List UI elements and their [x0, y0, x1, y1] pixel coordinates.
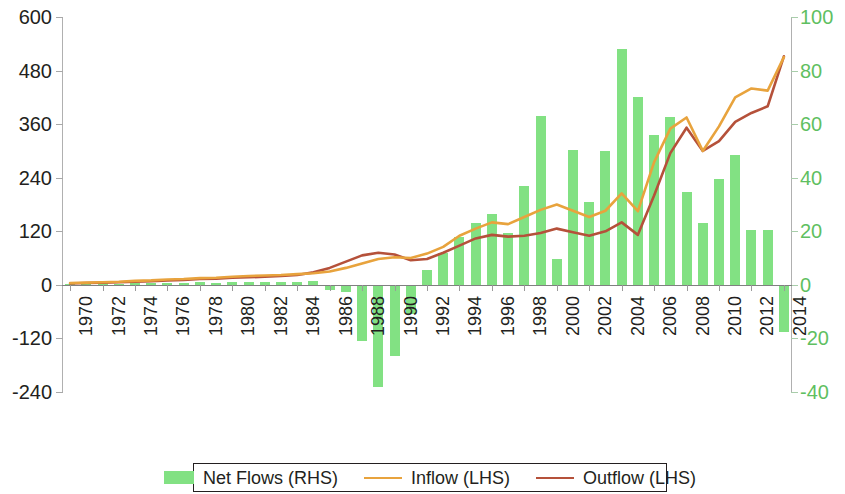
x-axis-tick-label: 2014 — [791, 296, 809, 336]
x-axis-tick — [232, 285, 233, 291]
x-axis-tick — [330, 285, 331, 291]
legend-item-net-flows: Net Flows (RHS) — [164, 469, 338, 487]
right-axis-tick-label: 60 — [800, 114, 845, 134]
x-axis-tick — [297, 285, 298, 291]
right-axis-tick — [791, 178, 798, 179]
right-axis-tick — [791, 71, 798, 72]
right-axis-tick-label: 80 — [800, 61, 845, 81]
legend-bar-swatch-icon — [164, 471, 194, 484]
x-axis-tick-label: 1982 — [272, 296, 290, 336]
x-axis-tick-label: 1994 — [466, 296, 484, 336]
x-axis-tick-label: 2012 — [758, 296, 776, 336]
x-axis-tick — [784, 285, 785, 291]
legend-label-inflow: Inflow (LHS) — [411, 469, 510, 487]
x-axis-tick-label: 1978 — [207, 296, 225, 336]
right-axis-tick-label: 20 — [800, 221, 845, 241]
x-axis-tick-label: 1972 — [110, 296, 128, 336]
left-axis-tick — [56, 392, 63, 393]
x-axis-tick — [622, 285, 623, 291]
right-axis-tick — [791, 17, 798, 18]
x-axis-tick-label: 1986 — [337, 296, 355, 336]
x-axis-tick — [719, 285, 720, 291]
x-axis-tick-label: 2004 — [629, 296, 647, 336]
x-axis-tick — [362, 285, 363, 291]
x-axis-tick — [200, 285, 201, 291]
legend-item-inflow: Inflow (LHS) — [364, 469, 510, 487]
left-axis-tick-label: -240 — [0, 382, 52, 402]
x-axis-tick — [524, 285, 525, 291]
x-axis-tick-label: 2008 — [694, 296, 712, 336]
plot-area — [62, 17, 792, 392]
chart-legend: Net Flows (RHS) Inflow (LHS) Outflow (LH… — [193, 463, 667, 492]
x-axis-tick-label: 2000 — [564, 296, 582, 336]
left-axis-tick-label: 480 — [0, 61, 52, 81]
x-axis-tick-label: 1992 — [434, 296, 452, 336]
left-axis-tick-label: 120 — [0, 221, 52, 241]
right-axis-tick — [791, 392, 798, 393]
x-axis-tick — [167, 285, 168, 291]
x-axis-tick — [135, 285, 136, 291]
x-axis-tick — [492, 285, 493, 291]
right-axis-tick-labels: 100806040200-20-40 — [800, 0, 845, 494]
outflow-line — [70, 56, 784, 283]
x-axis-tick-label: 1984 — [304, 296, 322, 336]
x-axis-tick — [427, 285, 428, 291]
chart-figure: 6004803602401200-120-240 100806040200-20… — [0, 0, 845, 494]
x-axis-tick-label: 2006 — [661, 296, 679, 336]
x-axis-tick — [103, 285, 104, 291]
x-axis-tick-label: 1998 — [531, 296, 549, 336]
left-axis-tick-label: 0 — [0, 275, 52, 295]
right-axis-tick-label: 0 — [800, 275, 845, 295]
left-axis-tick-label: -120 — [0, 328, 52, 348]
right-axis-tick — [791, 285, 798, 286]
x-axis-tick-label: 1974 — [142, 296, 160, 336]
x-axis-tick-label: 1976 — [174, 296, 192, 336]
inflow-line — [70, 57, 784, 283]
left-axis-tick-label: 600 — [0, 7, 52, 27]
x-axis-tick — [589, 285, 590, 291]
x-axis-tick — [687, 285, 688, 291]
right-axis-tick-label: -40 — [800, 382, 845, 402]
legend-line-swatch-inflow-icon — [364, 477, 402, 479]
x-axis-tick — [395, 285, 396, 291]
x-axis-tick-label: 2010 — [726, 296, 744, 336]
left-axis-tick-label: 360 — [0, 114, 52, 134]
x-axis-tick-label: 2002 — [596, 296, 614, 336]
right-axis-tick-label: 40 — [800, 168, 845, 188]
x-axis-tick — [70, 285, 71, 291]
x-axis-tick — [654, 285, 655, 291]
x-axis-tick — [459, 285, 460, 291]
x-axis-tick-label: 1970 — [77, 296, 95, 336]
legend-line-swatch-outflow-icon — [536, 477, 574, 479]
right-axis-tick-label: 100 — [800, 7, 845, 27]
x-axis-tick — [751, 285, 752, 291]
right-axis-tick — [791, 338, 798, 339]
legend-label-net-flows: Net Flows (RHS) — [203, 469, 338, 487]
legend-item-outflow: Outflow (LHS) — [536, 469, 696, 487]
line-series-layer — [62, 17, 792, 392]
left-axis-tick-label: 240 — [0, 168, 52, 188]
left-axis-tick-labels: 6004803602401200-120-240 — [0, 0, 52, 494]
right-axis-tick — [791, 231, 798, 232]
x-axis-tick — [557, 285, 558, 291]
legend-label-outflow: Outflow (LHS) — [583, 469, 696, 487]
right-axis-tick — [791, 124, 798, 125]
x-axis-tick-label: 1990 — [402, 296, 420, 336]
x-axis-tick-label: 1980 — [239, 296, 257, 336]
x-axis-tick-label: 1988 — [369, 296, 387, 336]
x-axis-tick-label: 1996 — [499, 296, 517, 336]
x-axis-tick — [265, 285, 266, 291]
